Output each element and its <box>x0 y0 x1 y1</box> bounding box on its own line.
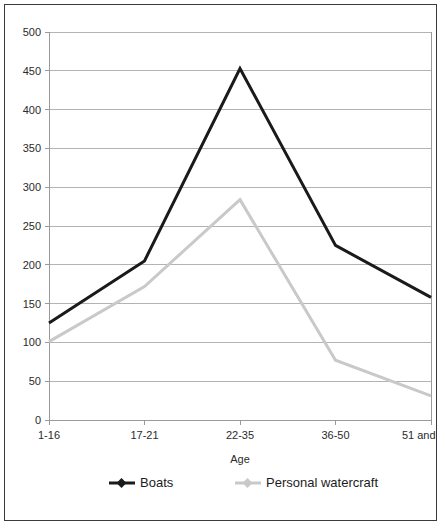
legend-label-personal-watercraft: Personal watercraft <box>266 475 378 490</box>
y-tick-label: 350 <box>23 142 41 154</box>
y-tick-label: 250 <box>23 220 41 232</box>
x-tick-label: 1-16 <box>38 429 60 441</box>
legend-swatch-marker <box>243 478 253 488</box>
y-tick-label: 400 <box>23 104 41 116</box>
x-tick-label: 36-50 <box>321 429 349 441</box>
chart-frame: 050100150200250300350400450500 1-1617-21… <box>4 4 437 521</box>
data-series-group <box>49 68 431 395</box>
y-tick-label: 100 <box>23 336 41 348</box>
x-tick-label: 51 and over <box>402 429 438 441</box>
series-line-personal-watercraft <box>49 200 431 396</box>
x-tick-label: 22-35 <box>226 429 254 441</box>
y-tick-label: 200 <box>23 259 41 271</box>
x-axis-title: Age <box>230 453 250 465</box>
y-tick-label: 300 <box>23 181 41 193</box>
y-tick-label: 150 <box>23 298 41 310</box>
legend-label-boats: Boats <box>140 475 174 490</box>
y-tick-label: 450 <box>23 65 41 77</box>
y-tick-label: 0 <box>35 414 41 426</box>
y-tick-label: 500 <box>23 26 41 38</box>
x-tick-label: 17-21 <box>130 429 158 441</box>
x-axis-ticks: 1-1617-2122-3536-5051 and over <box>38 420 438 441</box>
y-gridlines: 050100150200250300350400450500 <box>23 26 431 426</box>
series-line-boats <box>49 68 431 323</box>
chart-legend: BoatsPersonal watercraft <box>109 475 378 490</box>
line-chart: 050100150200250300350400450500 1-1617-21… <box>5 5 438 522</box>
legend-swatch-marker <box>117 478 127 488</box>
y-tick-label: 50 <box>29 375 41 387</box>
